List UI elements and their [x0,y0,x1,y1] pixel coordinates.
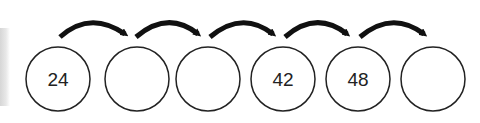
jump-arrows [60,23,424,37]
circle-5: 48 [326,47,390,111]
arrow-icon [136,23,198,37]
circle-6 [401,47,465,111]
sequence-diagram: 24 42 48 [0,0,480,123]
arrow-icon [210,23,273,37]
arrow-icon [60,23,125,37]
arrow-icon [360,23,424,37]
circle-1: 24 [26,47,90,111]
arrow-icon [285,23,347,37]
circle-4: 42 [251,47,315,111]
circle-value: 42 [272,69,293,90]
circle-3 [176,47,240,111]
circle-2 [105,47,169,111]
circle-value: 24 [47,69,69,90]
circle-value: 48 [347,69,368,90]
